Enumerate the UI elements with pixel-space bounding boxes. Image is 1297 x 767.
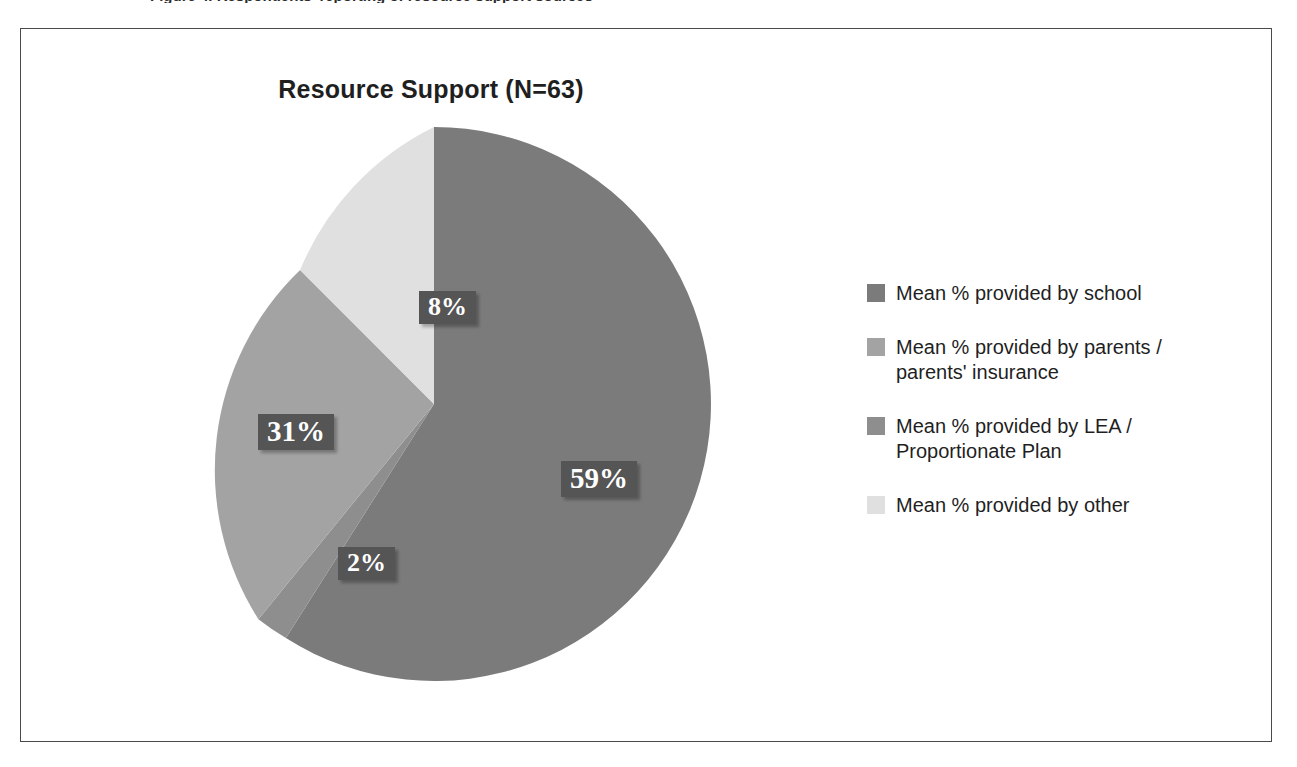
legend-label: Mean % provided by other — [896, 493, 1129, 519]
legend-swatch-icon — [867, 417, 885, 435]
legend-item-other[interactable]: Mean % provided by other — [867, 493, 1197, 519]
pie-chart — [156, 126, 712, 682]
pie-svg — [156, 126, 712, 682]
caption-fragment: Figure 4. Respondents' reporting of reso… — [150, 0, 850, 3]
legend-swatch-icon — [867, 284, 885, 302]
legend-item-parents[interactable]: Mean % provided by parents / parents' in… — [867, 335, 1197, 386]
pie-label-other: 8% — [419, 291, 476, 324]
figure-frame: Resource Support (N=63) 59% 31% 2% 8% Me… — [20, 28, 1272, 742]
pie-label-lea: 2% — [338, 547, 395, 580]
legend-item-lea[interactable]: Mean % provided by LEA / Proportionate P… — [867, 414, 1197, 465]
legend-label: Mean % provided by school — [896, 281, 1142, 307]
pie-label-school: 59% — [561, 461, 637, 497]
legend-label: Mean % provided by parents / parents' in… — [896, 335, 1162, 386]
legend-swatch-icon — [867, 338, 885, 356]
legend-item-school[interactable]: Mean % provided by school — [867, 281, 1197, 307]
chart-legend: Mean % provided by school Mean % provide… — [867, 281, 1197, 547]
pie-label-parents: 31% — [258, 414, 334, 450]
chart-title: Resource Support (N=63) — [21, 75, 841, 104]
legend-label: Mean % provided by LEA / Proportionate P… — [896, 414, 1132, 465]
legend-swatch-icon — [867, 496, 885, 514]
